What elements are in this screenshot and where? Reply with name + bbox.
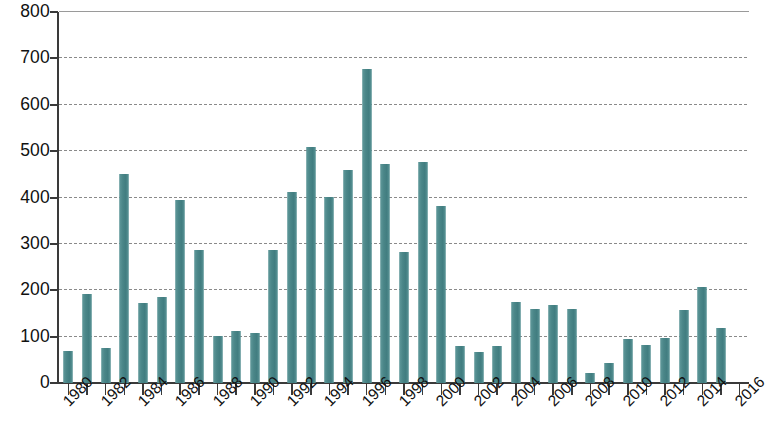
bar[interactable] [381, 164, 390, 383]
bar[interactable] [120, 174, 129, 383]
bar-slot [134, 12, 153, 383]
bar-slot [451, 12, 470, 383]
bar-slot [432, 12, 451, 383]
bar-slot [488, 12, 507, 383]
bar-slot [693, 12, 712, 383]
bar-slot [563, 12, 582, 383]
bar[interactable] [586, 373, 595, 383]
bar-slot [507, 12, 526, 383]
bar-slot [339, 12, 358, 383]
y-tick-mark [50, 11, 58, 13]
bar-slot [59, 12, 78, 383]
bar-slot [618, 12, 637, 383]
bar[interactable] [250, 333, 259, 383]
bar[interactable] [511, 302, 520, 383]
bar[interactable] [269, 250, 278, 383]
bar-slot [637, 12, 656, 383]
bar[interactable] [362, 69, 371, 383]
y-tick-label: 0 [2, 374, 50, 392]
bar-slot [357, 12, 376, 383]
bar-slot [115, 12, 134, 383]
bar-slot [190, 12, 209, 383]
y-tick-label: 100 [2, 328, 50, 346]
bar-slot [245, 12, 264, 383]
bar-slot [208, 12, 227, 383]
bar-slot [395, 12, 414, 383]
bar[interactable] [138, 303, 147, 383]
bar[interactable] [437, 206, 446, 383]
bar-slot [730, 12, 749, 383]
plot-area [59, 12, 749, 383]
bar[interactable] [213, 336, 222, 383]
y-tick-mark [50, 243, 58, 245]
bar-slot [600, 12, 619, 383]
bar[interactable] [82, 294, 91, 383]
bar-slot [227, 12, 246, 383]
bar-slot [544, 12, 563, 383]
bar-slot [525, 12, 544, 383]
bar[interactable] [399, 252, 408, 383]
y-tick-mark [50, 382, 58, 384]
y-tick-label: 600 [2, 96, 50, 114]
bar-slot [152, 12, 171, 383]
bar-slot [581, 12, 600, 383]
bar-slot [96, 12, 115, 383]
bar[interactable] [698, 287, 707, 383]
bar[interactable] [157, 297, 166, 383]
bar-slot [674, 12, 693, 383]
bar[interactable] [306, 147, 315, 383]
bar[interactable] [418, 162, 427, 383]
bar[interactable] [549, 305, 558, 383]
bar[interactable] [567, 309, 576, 383]
y-tick-label: 300 [2, 235, 50, 253]
bar-slot [171, 12, 190, 383]
y-tick-label: 400 [2, 189, 50, 207]
y-tick-mark [50, 289, 58, 291]
bar[interactable] [194, 250, 203, 383]
bar[interactable] [474, 352, 483, 383]
y-tick-label: 200 [2, 282, 50, 300]
y-tick-mark [50, 57, 58, 59]
bar-slot [656, 12, 675, 383]
y-tick-label: 500 [2, 142, 50, 160]
y-tick-mark [50, 104, 58, 106]
y-tick-mark [50, 336, 58, 338]
y-tick-mark [50, 197, 58, 199]
y-tick-mark [50, 150, 58, 152]
bar-slot [376, 12, 395, 383]
bar-slot [264, 12, 283, 383]
bar-slot [301, 12, 320, 383]
bar-slot [320, 12, 339, 383]
y-axis: 0100200300400500600700800 [0, 0, 50, 400]
bar-slot [712, 12, 731, 383]
bar[interactable] [64, 351, 73, 383]
bar-slot [413, 12, 432, 383]
bar-slot [469, 12, 488, 383]
bar[interactable] [325, 197, 334, 383]
bar[interactable] [344, 170, 353, 383]
bar[interactable] [679, 310, 688, 383]
bar[interactable] [288, 192, 297, 383]
bar-slot [283, 12, 302, 383]
y-tick-label: 800 [2, 3, 50, 21]
bar[interactable] [101, 348, 110, 383]
bar[interactable] [176, 200, 185, 383]
y-tick-label: 700 [2, 50, 50, 68]
bar[interactable] [623, 339, 632, 383]
bar[interactable] [661, 338, 670, 383]
bar[interactable] [530, 309, 539, 383]
bar-slot [78, 12, 97, 383]
